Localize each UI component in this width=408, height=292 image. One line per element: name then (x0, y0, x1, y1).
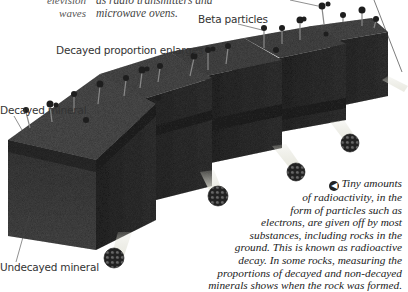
caption-line: ◀Tiny amounts (150, 177, 402, 191)
label-beta-particles: Beta particles (198, 13, 268, 25)
label-undecayed-mineral: Undecayed mineral (0, 261, 99, 273)
caption-line: waves (0, 7, 86, 20)
label-decayed-mineral: Decayed mineral (0, 104, 86, 116)
rock-cube-1 (8, 74, 156, 250)
caption-line: electrons, are given off by most (150, 216, 402, 229)
caption-line: decay. In some rocks, measuring the (150, 254, 402, 267)
caption-line: elevision (0, 0, 86, 7)
left-arrow-bullet-icon: ◀ (329, 181, 339, 191)
caption-text: Tiny amounts (341, 177, 402, 189)
caption-line: of radioactivity, in the (150, 191, 402, 204)
caption-line: as radio transmitters and (96, 0, 213, 7)
caption-line: form of particles such as (150, 204, 402, 217)
caption-line: microwave ovens. (96, 7, 213, 20)
caption-top-left: elevision waves (0, 0, 86, 20)
caption-line: ground. This is known as radioactive (150, 241, 402, 254)
caption-line: proportions of decayed and non-decayed (150, 267, 402, 280)
caption-line: minerals shows when the rock was formed. (150, 279, 402, 292)
main-caption: ◀Tiny amounts of radioactivity, in the f… (150, 177, 402, 292)
caption-line: substances, including rocks in the (150, 229, 402, 242)
label-decayed-proportion: Decayed proportion enlarges (56, 44, 203, 56)
caption-top-middle: as radio transmitters and microwave oven… (96, 0, 213, 20)
